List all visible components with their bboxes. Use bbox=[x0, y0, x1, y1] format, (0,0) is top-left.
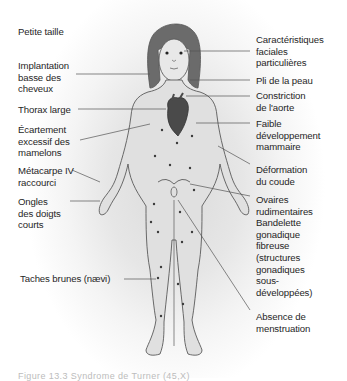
label-line: faciales bbox=[256, 46, 324, 58]
label-line: de l'aorte bbox=[256, 102, 305, 114]
label-line: du coude bbox=[256, 176, 307, 188]
label-line: courts bbox=[18, 219, 61, 231]
label-line: Taches brunes (nævi) bbox=[20, 273, 110, 285]
label-line: menstruation bbox=[256, 323, 310, 335]
label-broad-chest: Thorax large bbox=[18, 104, 71, 116]
label-amenorrhea: Absence de menstruation bbox=[256, 311, 310, 334]
label-line: particulières bbox=[256, 57, 324, 69]
label-line: Métacarpe IV bbox=[18, 165, 74, 177]
label-rudimentary-ovaries: Ovaires rudimentaires Bandelette gonadiq… bbox=[256, 194, 313, 298]
label-line: gonadiques bbox=[256, 264, 313, 276]
label-line: excessif des bbox=[18, 136, 70, 148]
label-line: raccourci bbox=[18, 177, 74, 189]
label-line: gonadique bbox=[256, 229, 313, 241]
label-widely-spaced-nipples: Écartement excessif des mamelons bbox=[18, 124, 70, 159]
label-line: Absence de bbox=[256, 311, 310, 323]
label-line: (structures bbox=[256, 252, 313, 264]
label-line: sous- bbox=[256, 275, 313, 287]
label-line: basse des bbox=[18, 72, 69, 84]
label-line: Ovaires bbox=[256, 194, 313, 206]
label-line: développées) bbox=[256, 287, 313, 299]
label-low-hairline: Implantation basse des cheveux bbox=[18, 60, 69, 95]
label-short-nails: Ongles des doigts courts bbox=[18, 196, 61, 231]
label-line: Bandelette bbox=[256, 217, 313, 229]
figure-caption: Figure 13.3 Syndrome de Turner (45,X) bbox=[18, 371, 190, 381]
label-line: rudimentaires bbox=[256, 206, 313, 218]
label-line: mamelons bbox=[18, 147, 70, 159]
label-aortic-constriction: Constriction de l'aorte bbox=[256, 90, 305, 113]
label-line: Petite taille bbox=[18, 26, 64, 38]
label-line: Caractéristiques bbox=[256, 34, 324, 46]
label-short-fourth-metacarpal: Métacarpe IV raccourci bbox=[18, 165, 74, 188]
label-short-stature: Petite taille bbox=[18, 26, 64, 38]
label-line: Implantation bbox=[18, 60, 69, 72]
label-line: Déformation bbox=[256, 164, 307, 176]
face bbox=[159, 39, 189, 81]
label-line: Constriction bbox=[256, 90, 305, 102]
label-line: cheveux bbox=[18, 83, 69, 95]
label-breast-development: Faible développement mammaire bbox=[256, 118, 320, 153]
label-facial-features: Caractéristiques faciales particulières bbox=[256, 34, 324, 69]
label-line: Faible bbox=[256, 118, 320, 130]
label-line: mammaire bbox=[256, 141, 320, 153]
label-brown-spots: Taches brunes (nævi) bbox=[20, 273, 110, 285]
label-line: Écartement bbox=[18, 124, 70, 136]
label-line: des doigts bbox=[18, 208, 61, 220]
label-line: Ongles bbox=[18, 196, 61, 208]
label-line: fibreuse bbox=[256, 240, 313, 252]
label-line: Thorax large bbox=[18, 104, 71, 116]
label-skin-fold: Pli de la peau bbox=[256, 75, 313, 87]
label-line: développement bbox=[256, 130, 320, 142]
label-elbow-deformity: Déformation du coude bbox=[256, 164, 307, 187]
label-line: Pli de la peau bbox=[256, 75, 313, 87]
